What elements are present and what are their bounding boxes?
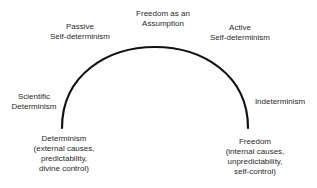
- label-line: (external causes,: [24, 144, 104, 154]
- label-active-self-determinism: Active Self-determinism: [200, 23, 280, 43]
- label-scientific-determinism: Scientific Determinism: [5, 92, 63, 112]
- label-freedom-pole: Freedom (internal causes, unpredictabili…: [215, 137, 295, 177]
- label-line: Freedom: [215, 137, 295, 147]
- label-line: predictability,: [24, 154, 104, 164]
- label-line: Determinism: [5, 102, 63, 112]
- label-line: Active: [200, 23, 280, 33]
- label-line: Passive: [40, 22, 120, 32]
- label-line: divine control): [24, 164, 104, 174]
- label-line: Freedom as an: [123, 9, 203, 19]
- label-determinism-pole: Determinism (external causes, predictabi…: [24, 134, 104, 174]
- label-line: Assumption: [123, 19, 203, 29]
- label-line: self-control): [215, 167, 295, 177]
- label-line: Self-determinism: [200, 33, 280, 43]
- label-passive-self-determinism: Passive Self-determinism: [40, 22, 120, 42]
- label-line: Indeterminism: [250, 97, 310, 107]
- label-line: (internal causes,: [215, 147, 295, 157]
- label-line: Self-determinism: [40, 32, 120, 42]
- label-line: Scientific: [5, 92, 63, 102]
- label-indeterminism: Indeterminism: [250, 97, 310, 107]
- label-line: Determinism: [24, 134, 104, 144]
- label-line: unpredictability,: [215, 157, 295, 167]
- label-freedom-as-assumption: Freedom as an Assumption: [123, 9, 203, 29]
